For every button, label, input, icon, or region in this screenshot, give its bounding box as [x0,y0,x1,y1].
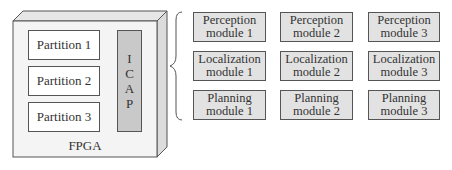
module-subtitle: module 1 [206,105,253,118]
grouping-brace-icon [170,12,182,120]
partition-1: Partition 1 [28,30,100,60]
partition-1-label: Partition 1 [37,37,92,53]
icap-letter-c: C [125,66,134,81]
partition-3-label: Partition 3 [37,109,92,125]
module-perception-2: Perception module 2 [280,12,353,42]
module-localization-2: Localization module 2 [280,51,353,81]
module-localization-1: Localization module 1 [193,51,266,81]
module-planning-1: Planning module 1 [193,90,266,120]
module-subtitle: module 2 [293,105,340,118]
module-subtitle: module 2 [293,27,340,40]
partition-2: Partition 2 [28,66,100,96]
module-perception-3: Perception module 3 [368,12,440,42]
icap-letter-i: I [127,51,131,66]
module-localization-3: Localization module 3 [368,51,440,81]
icap-block: I C A P [117,30,142,132]
partition-2-label: Partition 2 [37,73,92,89]
module-planning-2: Planning module 2 [280,90,353,120]
icap-letter-a: A [125,81,134,96]
module-perception-1: Perception module 1 [193,12,266,42]
icap-letter-p: P [126,96,133,111]
fpga-label: FPGA [13,138,157,154]
partition-3: Partition 3 [28,102,100,132]
module-subtitle: module 2 [293,66,340,79]
module-subtitle: module 3 [381,27,428,40]
module-subtitle: module 1 [206,66,253,79]
module-subtitle: module 3 [381,66,428,79]
module-planning-3: Planning module 3 [368,90,440,120]
module-subtitle: module 1 [206,27,253,40]
module-subtitle: module 3 [381,105,428,118]
